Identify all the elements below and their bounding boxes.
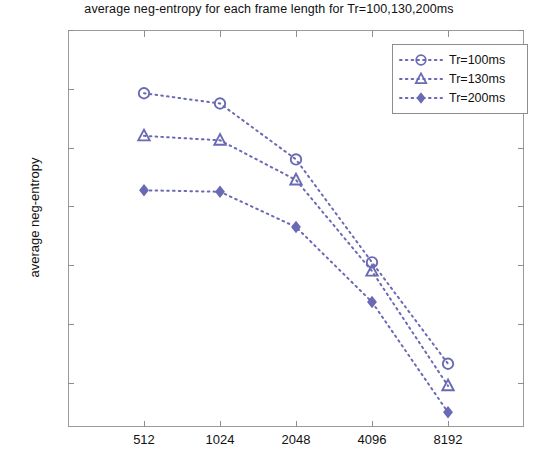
data-point [291, 154, 301, 164]
chart-figure: average neg-entropy for each frame lengt… [0, 0, 538, 460]
circle-icon [397, 51, 445, 69]
series-diamond [140, 185, 452, 417]
legend-sample [397, 51, 445, 69]
data-point [290, 174, 301, 185]
legend-label: Tr=200ms [445, 91, 505, 105]
triangle-icon [397, 70, 445, 88]
chart-legend: Tr=100msTr=130msTr=200ms [392, 44, 528, 114]
legend-item[interactable]: Tr=200ms [397, 88, 523, 107]
data-point [140, 185, 148, 195]
legend-item[interactable]: Tr=130ms [397, 69, 523, 88]
legend-label: Tr=130ms [445, 72, 505, 86]
legend-sample [397, 70, 445, 88]
data-point [216, 187, 224, 197]
legend-label: Tr=100ms [445, 53, 505, 67]
legend-sample [397, 89, 445, 107]
legend-item[interactable]: Tr=100ms [397, 50, 523, 69]
diamond-icon [397, 89, 445, 107]
